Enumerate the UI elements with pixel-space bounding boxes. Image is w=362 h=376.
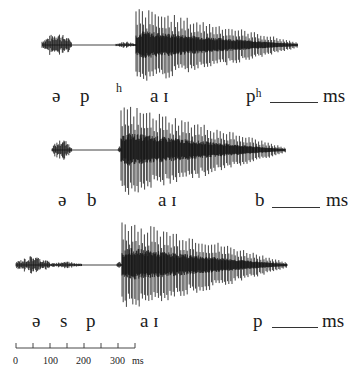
waveform-voiced bbox=[52, 107, 285, 195]
phoneme-label: s bbox=[60, 311, 67, 330]
phoneme-label: ə bbox=[58, 190, 66, 209]
scale-tick-label: ms bbox=[132, 356, 144, 366]
scale-tick-label: 0 bbox=[13, 356, 18, 366]
duration-unit-label: ms bbox=[322, 311, 344, 330]
duration-unit-label: ms bbox=[323, 86, 345, 105]
phoneme-label: a ɪ bbox=[150, 86, 168, 105]
aspiration-superscript: h bbox=[116, 82, 122, 94]
phoneme-label: b bbox=[255, 190, 265, 209]
phoneme-label: a ɪ bbox=[140, 311, 158, 330]
waveforms bbox=[16, 9, 297, 307]
phoneme-label: p bbox=[86, 311, 96, 330]
duration-answer-blank bbox=[272, 207, 320, 208]
phoneme-label: pʰ bbox=[246, 86, 262, 105]
scale-tick-label: 200 bbox=[76, 356, 91, 366]
scale-tick-label: 300 bbox=[110, 356, 125, 366]
duration-answer-blank bbox=[272, 327, 318, 328]
time-scale-bar bbox=[16, 343, 135, 348]
phoneme-label: a ɪ bbox=[158, 190, 176, 209]
phoneme-label: ə bbox=[32, 311, 40, 330]
waveform-s-cluster bbox=[16, 223, 287, 307]
phoneme-label: b bbox=[87, 190, 97, 209]
scale-tick-label: 100 bbox=[43, 356, 58, 366]
waveform-canvas bbox=[0, 0, 362, 376]
waveform-aspirated bbox=[42, 9, 297, 81]
duration-unit-label: ms bbox=[326, 190, 348, 209]
phoneme-label: ə bbox=[52, 86, 60, 105]
phoneme-label: p bbox=[80, 86, 90, 105]
duration-answer-blank bbox=[270, 102, 318, 103]
phoneme-label: p bbox=[253, 311, 263, 330]
